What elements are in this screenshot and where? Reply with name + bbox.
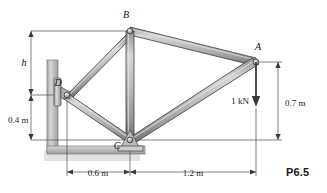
member-DB-highlight: [67, 34, 130, 98]
dim-label-0-7m: 0.7 m: [285, 98, 306, 108]
load-label-1kn: 1 kN: [231, 96, 249, 106]
load-arrow-1kn: [252, 62, 260, 107]
pin-D: [64, 92, 70, 98]
support-C-base-plate: [118, 146, 143, 151]
dim-arrow-06-right: [124, 169, 130, 174]
dim-arrow-h-top: [28, 31, 33, 37]
member-BA: [130, 27, 256, 66]
member-BC: [126, 31, 134, 140]
pin-B: [127, 28, 133, 34]
dim-arrow-h-bottom: [28, 89, 33, 95]
joint-label-A: A: [254, 41, 262, 52]
dim-label-1-2m: 1.2 m: [183, 168, 204, 178]
dim-arrow-04-top: [28, 95, 33, 101]
load-arrow-head: [252, 96, 260, 107]
dim-label-h: h: [22, 57, 27, 68]
dim-arrow-06-left: [67, 169, 73, 174]
dim-label-0-6m: 0.6 m: [88, 168, 109, 178]
joint-label-C: C: [114, 140, 121, 151]
joint-label-B: B: [123, 9, 129, 20]
member-DC-highlight: [66, 94, 128, 138]
dim-arrow-07-bottom: [275, 134, 280, 140]
truss-members: [63, 27, 259, 144]
figure-number-label: P6.5: [286, 166, 309, 178]
member-DB: [63, 35, 134, 99]
dim-arrow-12-left: [130, 169, 136, 174]
dim-arrow-07-top: [275, 62, 280, 68]
member-BA-highlight: [132, 30, 254, 60]
dim-label-0-4m: 0.4 m: [8, 115, 29, 125]
dim-arrow-04-bottom: [28, 134, 33, 140]
joint-label-D: D: [53, 77, 62, 88]
pin-C: [127, 137, 133, 143]
dim-arrow-12-right: [250, 169, 256, 174]
figure-p6-5: B A C D h 0.4 m 0.7 m 0.6 m 1.2 m 1 kN P…: [0, 0, 327, 193]
truss-diagram: B A C D h 0.4 m 0.7 m 0.6 m 1.2 m 1 kN: [0, 0, 327, 193]
